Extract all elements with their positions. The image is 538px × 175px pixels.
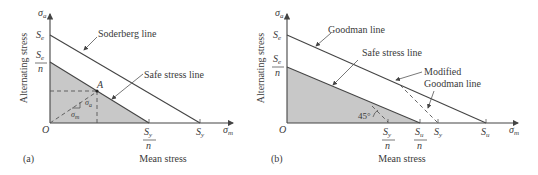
soderberg-line-label: Soderberg line	[98, 28, 157, 39]
panel-tag-a: (a)	[23, 153, 34, 165]
y-axis-title-b: Alternating stress	[255, 33, 266, 103]
y-axis-symbol-a: σa	[38, 7, 47, 20]
tick-label-su-b: Su	[481, 126, 490, 139]
x-axis-title-a: Mean stress	[139, 153, 187, 164]
tick-label-su-over-n-b-num: Su	[415, 126, 424, 139]
tick-label-su-over-n-b-den: n	[417, 140, 422, 151]
tick-label-sy-b: Sy	[434, 126, 443, 139]
fatigue-diagrams: σa Alternating stress Se Se n O A σa σm …	[0, 0, 538, 175]
modified-pointer-1	[396, 72, 422, 80]
tick-label-se-over-n-b-num: Se	[273, 53, 281, 66]
x-axis-symbol-a: σm	[223, 124, 233, 137]
origin-label-b: O	[279, 124, 286, 135]
modified-goodman-label-2: Goodman line	[424, 78, 481, 89]
point-a-label: A	[96, 79, 104, 90]
safe-stress-line-label-a: Safe stress line	[144, 69, 205, 80]
y-axis-symbol-b: σa	[275, 7, 284, 20]
panel-tag-b: (b)	[271, 153, 283, 165]
panel-b-goodman-diagram: σa Alternating stress Se Se n O 45° Sy n…	[255, 7, 519, 165]
tick-label-se-over-n-a-num: Se	[36, 49, 44, 62]
tick-label-se-a: Se	[36, 29, 44, 42]
tick-label-sy-a: Sy	[196, 126, 205, 139]
x-axis-symbol-b: σm	[509, 124, 519, 137]
tick-label-se-b: Se	[273, 29, 281, 42]
origin-label-a: O	[42, 124, 49, 135]
panel-a-soderberg-diagram: σa Alternating stress Se Se n O A σa σm …	[18, 7, 233, 165]
soderberg-pointer	[84, 37, 97, 50]
tick-label-sy-over-n-b-num: Sy	[383, 126, 392, 139]
tick-label-se-over-n-b-den: n	[275, 67, 280, 78]
modified-goodman-label-1: Modified	[424, 66, 461, 77]
tick-label-sy-over-n-a-num: Sy	[144, 126, 153, 139]
safe-stress-line-label-b: Safe stress line	[362, 47, 423, 58]
goodman-line-label: Goodman line	[328, 24, 385, 35]
tick-label-se-over-n-a-den: n	[38, 63, 43, 74]
tick-label-sy-over-n-a-den: n	[146, 140, 151, 151]
tick-label-sy-over-n-b-den: n	[385, 140, 390, 151]
safe-line-pointer-b	[333, 60, 358, 85]
x-axis-title-b: Mean stress	[378, 153, 426, 164]
y-axis-title-a: Alternating stress	[18, 33, 29, 103]
angle-label-45: 45°	[358, 111, 371, 121]
